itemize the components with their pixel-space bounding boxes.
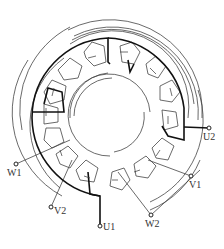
terminal-v1 [189, 174, 193, 178]
terminal-u2 [207, 126, 211, 130]
stator-slots [44, 42, 180, 190]
label-v1: V1 [189, 180, 201, 190]
label-v2: V2 [54, 206, 66, 216]
label-u1: U1 [103, 222, 115, 232]
direction-arrows [46, 52, 172, 180]
terminal-w1 [14, 162, 18, 166]
phase-u-path [32, 38, 209, 226]
terminal-u1 [98, 224, 102, 228]
label-w2: W2 [145, 219, 159, 229]
terminal-v2 [49, 205, 53, 209]
winding-diagram [0, 0, 224, 249]
label-w1: W1 [7, 168, 21, 178]
bore-arcs [68, 73, 150, 156]
terminal-circles [14, 126, 211, 228]
terminal-w2 [149, 213, 153, 217]
terminal-leads [16, 140, 200, 215]
label-u2: U2 [203, 132, 215, 142]
